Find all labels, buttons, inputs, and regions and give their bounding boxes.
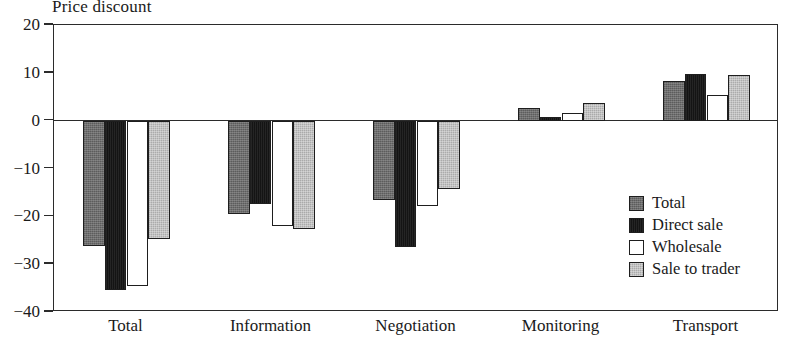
bar	[83, 121, 105, 247]
legend-item: Wholesale	[629, 236, 740, 258]
y-axis-tick-mark	[44, 215, 53, 217]
bar	[250, 121, 272, 205]
y-axis-tick-mark	[44, 167, 53, 169]
legend-item: Sale to trader	[629, 258, 740, 280]
bar	[127, 121, 149, 286]
bar	[417, 121, 439, 206]
legend-swatch-icon	[629, 262, 644, 277]
bar	[540, 117, 562, 120]
bar	[395, 121, 417, 248]
chart-title: Price discount	[52, 0, 152, 17]
legend-item: Direct sale	[629, 214, 740, 236]
legend-label: Wholesale	[652, 239, 722, 256]
bar	[562, 113, 584, 121]
x-axis-tick-label: Information	[230, 316, 311, 336]
bar	[663, 81, 685, 120]
y-axis-tick-mark	[44, 23, 53, 25]
legend-swatch-icon	[629, 240, 644, 255]
y-axis-tick-label: −20	[13, 207, 40, 224]
y-axis-tick-label: 10	[23, 64, 40, 81]
y-axis-tick-mark	[44, 310, 53, 312]
bar	[728, 75, 750, 120]
bar	[438, 121, 460, 189]
x-axis-tick-label: Negotiation	[375, 316, 455, 336]
bar	[707, 95, 729, 120]
legend-swatch-icon	[629, 218, 644, 233]
legend-swatch-icon	[629, 196, 644, 211]
legend-item: Total	[629, 192, 740, 214]
y-axis-tick-label: −30	[13, 255, 40, 272]
chart-root: Price discount 20100−10−20−30−40 TotalIn…	[0, 0, 794, 347]
y-axis-tick-mark	[44, 71, 53, 73]
bar	[685, 74, 707, 121]
bar	[293, 121, 315, 230]
y-axis-tick-mark	[44, 119, 53, 121]
y-axis-tick-label: −10	[13, 160, 40, 177]
x-axis-tick-label: Transport	[673, 316, 739, 336]
legend-label: Sale to trader	[652, 261, 740, 278]
bar	[105, 121, 127, 290]
y-axis-tick-mark	[44, 262, 53, 264]
bar	[518, 108, 540, 121]
legend: TotalDirect saleWholesaleSale to trader	[629, 192, 740, 280]
bar	[583, 103, 605, 121]
bar	[228, 121, 250, 215]
y-axis-tick-label: 20	[23, 16, 40, 33]
bar	[373, 121, 395, 200]
bar	[148, 121, 170, 240]
y-axis-tick-label: −40	[13, 303, 40, 320]
x-axis-tick-label: Monitoring	[522, 316, 599, 336]
y-axis-tick-label: 0	[32, 112, 41, 129]
legend-label: Direct sale	[652, 217, 723, 234]
x-axis-tick-label: Total	[108, 316, 143, 336]
legend-label: Total	[652, 195, 686, 212]
bar	[272, 121, 294, 226]
